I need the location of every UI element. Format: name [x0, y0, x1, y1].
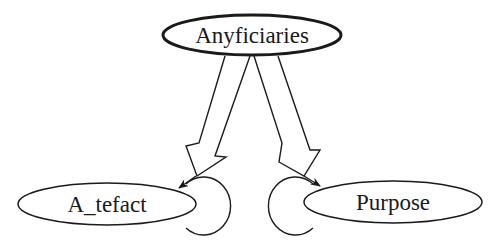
node-anyficiaries-label: Anyficiaries	[195, 23, 309, 48]
node-artefact[interactable]: A_tefact	[18, 183, 196, 225]
edge-anyficiaries-to-purpose	[254, 56, 320, 186]
edge-anyficiaries-to-artefact	[179, 56, 250, 188]
node-anyficiaries[interactable]: Anyficiaries	[163, 15, 341, 55]
node-artefact-label: A_tefact	[67, 192, 147, 217]
node-purpose[interactable]: Purpose	[304, 181, 482, 223]
node-purpose-label: Purpose	[356, 190, 430, 215]
graph-diagram: Anyficiaries A_tefact Purpose	[0, 0, 498, 247]
